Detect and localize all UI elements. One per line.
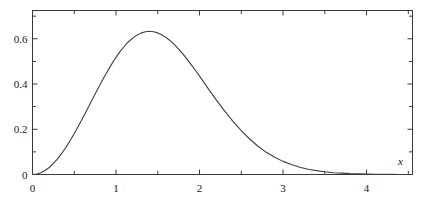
x-tick-label: 1 [113, 183, 119, 194]
x-tick-label: 2 [197, 183, 203, 194]
y-tick-label: 0 [22, 169, 28, 180]
x-tick-label: 4 [364, 183, 370, 194]
chart-figure: 0123400.20.40.6 x [0, 0, 426, 203]
data-curve [33, 31, 409, 174]
x-tick-label: 3 [280, 183, 286, 194]
y-tick-label: 0.2 [14, 124, 28, 135]
y-tick-label: 0.4 [14, 79, 28, 90]
axis-ticks [33, 11, 413, 175]
plot-canvas [0, 0, 426, 203]
y-tick-label: 0.6 [14, 33, 28, 44]
axes-frame [33, 11, 413, 175]
x-tick-label: 0 [30, 183, 36, 194]
x-axis-label: x [398, 155, 403, 166]
